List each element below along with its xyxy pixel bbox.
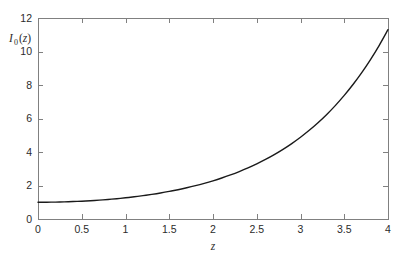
- x-tick-label-5: 2.5: [249, 223, 264, 235]
- x-tick-label-2: 1: [123, 223, 129, 235]
- x-tick-label-6: 3: [298, 223, 304, 235]
- x-tick-label-3: 1.5: [162, 223, 177, 235]
- x-tick-label-8: 4: [385, 223, 391, 235]
- y-tick-label-4: 8: [26, 79, 32, 91]
- y-tick-label-0: 0: [26, 213, 32, 225]
- y-tick-label-3: 6: [26, 112, 32, 124]
- x-tick-label-0: 0: [35, 223, 41, 235]
- y-tick-label-1: 2: [26, 179, 32, 191]
- figure-canvas: 00.511.522.533.54 024681012 I 0 (z) z: [0, 0, 410, 259]
- plot-area-background: [38, 18, 388, 219]
- y-tick-label-5: 10: [20, 45, 32, 57]
- y-tick-label-2: 4: [26, 146, 32, 158]
- x-tick-label-1: 0.5: [74, 223, 89, 235]
- bessel-function-plot: 00.511.522.533.54 024681012 I 0 (z) z: [0, 0, 410, 259]
- y-axis-label-subscript: 0: [14, 38, 18, 47]
- y-axis-label-argument-variable: z: [22, 32, 28, 44]
- x-axis-label: z: [210, 240, 216, 252]
- y-tick-label-6: 12: [20, 12, 32, 24]
- x-tick-label-7: 3.5: [337, 223, 352, 235]
- x-axis-tick-labels: 00.511.522.533.54: [35, 223, 391, 235]
- x-tick-label-4: 2: [210, 223, 216, 235]
- y-axis-label-argument: (z): [19, 32, 31, 45]
